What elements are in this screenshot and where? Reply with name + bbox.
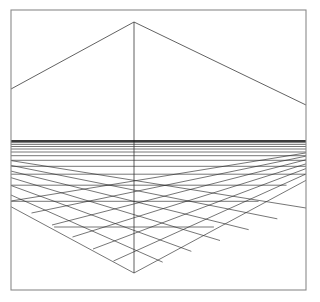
perspective-grid-canvas xyxy=(0,0,320,302)
canvas-background xyxy=(0,0,320,302)
perspective-grid-figure xyxy=(0,0,320,302)
